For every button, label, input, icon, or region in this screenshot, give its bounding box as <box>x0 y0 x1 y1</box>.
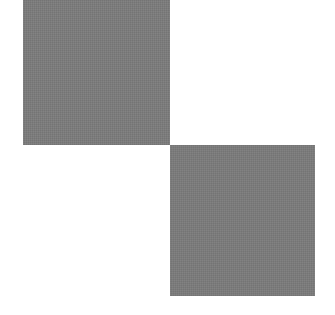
top-left-square <box>23 0 170 145</box>
bottom-right-square <box>170 145 315 296</box>
